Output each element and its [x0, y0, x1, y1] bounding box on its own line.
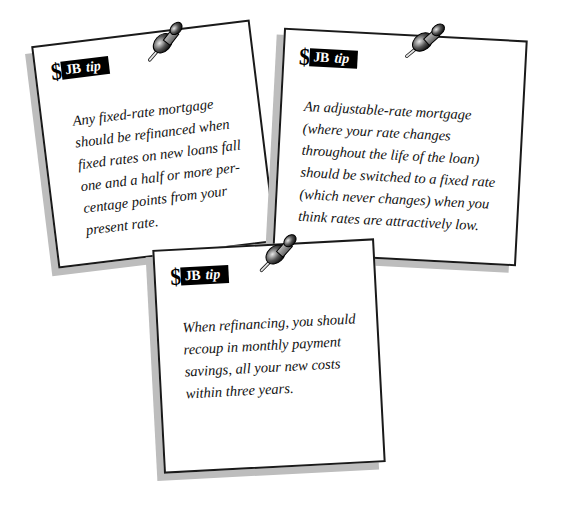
- dollar-sign-icon: $: [170, 267, 182, 288]
- jb-tip-badge: $ JB tip: [169, 264, 229, 287]
- badge-tip: tip: [85, 58, 101, 75]
- tip-text: An adjustable-rate mortgage (where your …: [298, 95, 520, 238]
- pushpin-icon: [141, 15, 190, 64]
- jb-tip-badge: $ JB tip: [298, 47, 358, 70]
- tip-text: When refinancing, you should recoup in m…: [182, 307, 376, 405]
- tip-text: Any fixed-rate mortgage should be refina…: [71, 88, 266, 241]
- badge-label: JB tip: [180, 265, 229, 285]
- badge-tip: tip: [334, 50, 350, 66]
- badge-brand: JB: [64, 60, 81, 77]
- tip-note-recoup-costs: $ JB tip When refinancing, you should re…: [152, 238, 385, 473]
- tip-note-adjustable-rate: $ JB tip An adjustable-rate mortgage (wh…: [272, 28, 527, 266]
- jb-tip-badge: $ JB tip: [49, 55, 110, 82]
- badge-label: JB tip: [309, 48, 358, 68]
- badge-brand: JB: [184, 268, 200, 284]
- pushpin-icon: [255, 228, 301, 274]
- tip-note-fixed-rate: $ JB tip Any fixed-rate mortgage should …: [31, 19, 277, 268]
- badge-brand: JB: [313, 49, 329, 65]
- badge-tip: tip: [205, 266, 221, 282]
- dollar-sign-icon: $: [50, 61, 63, 82]
- dollar-sign-icon: $: [299, 47, 311, 68]
- pushpin-icon: [403, 16, 449, 62]
- badge-label: JB tip: [60, 56, 109, 80]
